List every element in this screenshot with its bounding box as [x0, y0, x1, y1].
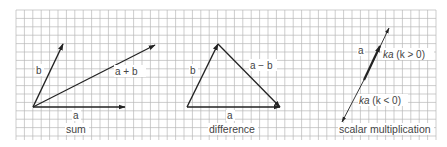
- caption-sum: sum: [66, 123, 86, 135]
- label-a: a: [358, 45, 364, 56]
- label-ka-k-positive: ka (k > 0): [383, 49, 425, 60]
- label-a: a: [73, 110, 79, 121]
- label-b: b: [36, 65, 42, 76]
- label-ka-k-negative: ka (k < 0): [359, 95, 401, 106]
- label-b: b: [190, 65, 196, 76]
- caption-scalar-multiplication: scalar multiplication: [339, 123, 431, 135]
- label-a: a: [227, 110, 233, 121]
- diagram-canvas: b a + b a sum b a − b a difference: [0, 0, 447, 147]
- label-a-plus-b: a + b: [115, 66, 138, 77]
- vector-operations-diagram: b a + b a sum b a − b a difference: [0, 0, 447, 147]
- caption-difference: difference: [209, 123, 255, 135]
- label-a-minus-b: a − b: [250, 60, 273, 71]
